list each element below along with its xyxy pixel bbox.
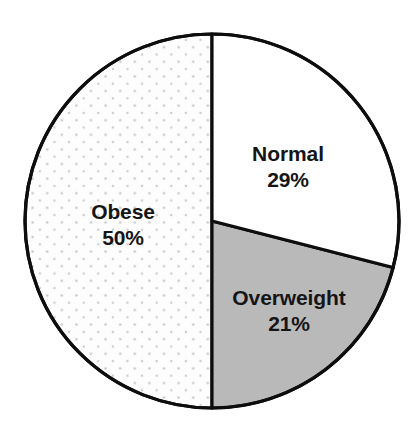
pie-label-overweight-name: Overweight xyxy=(222,286,356,311)
pie-label-normal: Normal 29% xyxy=(224,142,352,193)
pie-chart: Normal 29% Overweight 21% Obese 50% xyxy=(0,0,408,440)
pie-label-overweight-value: 21% xyxy=(222,312,356,337)
pie-label-normal-name: Normal xyxy=(224,142,352,167)
pie-label-obese-value: 50% xyxy=(60,226,186,251)
pie-label-obese: Obese 50% xyxy=(60,200,186,251)
pie-label-normal-value: 29% xyxy=(224,168,352,193)
pie-label-obese-name: Obese xyxy=(60,200,186,225)
pie-label-overweight: Overweight 21% xyxy=(222,286,356,337)
